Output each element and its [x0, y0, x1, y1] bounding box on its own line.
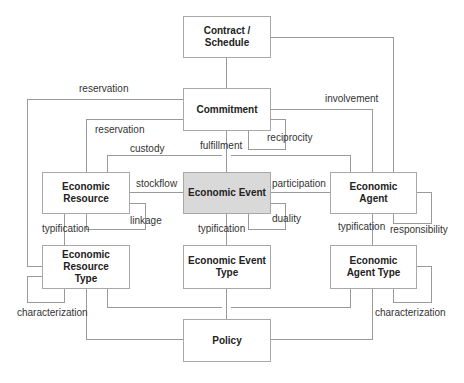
- label-custody: custody: [130, 143, 164, 155]
- entity-policy: Policy: [183, 319, 271, 362]
- label-involvement: involvement: [325, 93, 378, 105]
- edge-custody: [108, 156, 351, 173]
- label-reciprocity: reciprocity: [267, 132, 313, 144]
- label-stockflow: stockflow: [136, 178, 177, 190]
- entity-economic-agent: Economic Agent: [330, 172, 417, 214]
- entity-label: Economic Event Type: [188, 255, 266, 279]
- label-typification-event: typification: [198, 223, 245, 235]
- entity-economic-agent-type: Economic Agent Type: [330, 245, 417, 289]
- label-characterization-agent-self: characterization: [375, 307, 446, 319]
- label-characterization-resource-self: characterization: [17, 307, 88, 319]
- edge-agenttype-policy: [270, 288, 373, 340]
- label-linkage: linkage: [130, 215, 162, 227]
- label-typification-agent: typification: [338, 221, 385, 233]
- entity-economic-event-type: Economic Event Type: [183, 245, 271, 289]
- entity-commitment: Commitment: [183, 88, 271, 131]
- entity-economic-event: Economic Event: [183, 172, 271, 214]
- entity-label: Economic Resource: [62, 181, 110, 205]
- entity-label: Economic Event: [188, 187, 266, 199]
- entity-label: Economic Resource Type: [62, 249, 110, 285]
- label-reservation-outer: reservation: [79, 83, 128, 95]
- label-typification-resource: typification: [42, 223, 89, 235]
- entity-label: Commitment: [196, 104, 257, 116]
- entity-contract-schedule: Contract / Schedule: [183, 16, 271, 58]
- entity-label: Contract / Schedule: [204, 25, 251, 49]
- entity-label: Economic Agent: [350, 181, 398, 205]
- label-reservation-inner: reservation: [95, 124, 144, 136]
- entity-label: Policy: [212, 335, 241, 347]
- edge-characterization-resource: [108, 288, 351, 308]
- label-participation: participation: [272, 178, 326, 190]
- entity-economic-resource: Economic Resource: [42, 172, 130, 214]
- entity-label: Economic Agent Type: [347, 255, 401, 279]
- label-fulfillment: fulfillment: [200, 140, 242, 152]
- edge-resourcetype-policy: [87, 288, 184, 340]
- rea-diagram: Contract / Schedule Commitment Economic …: [0, 0, 464, 383]
- label-responsibility: responsibility: [390, 224, 448, 236]
- label-duality: duality: [272, 213, 301, 225]
- entity-economic-resource-type: Economic Resource Type: [42, 245, 130, 289]
